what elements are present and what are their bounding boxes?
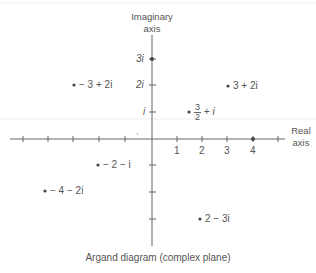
- point-neg3-plus-2i: [72, 83, 75, 86]
- diagram-canvas: [0, 0, 316, 273]
- fraction-rest: + i: [204, 106, 215, 117]
- real-tick-label-1: 1: [174, 146, 180, 156]
- point-2-minus-3i: [198, 217, 201, 220]
- point-3-plus-2i: [226, 84, 229, 87]
- point-3half-plus-i: [187, 110, 190, 113]
- imag-tick-label-i: i: [143, 107, 145, 117]
- point-label-neg3-plus-2i: − 3 + 2i: [79, 80, 112, 90]
- point-neg2-minus-i: [96, 163, 99, 166]
- real-tick-label-3: 3: [224, 146, 230, 156]
- imag-tick-label-2i: 2i: [136, 80, 144, 90]
- real-tick-label-2: 2: [199, 146, 205, 156]
- point-label-2-minus-3i: 2 − 3i: [205, 214, 230, 224]
- fraction-denominator: 2: [194, 113, 201, 122]
- real-axis-title-line1: Real: [288, 125, 314, 137]
- imaginary-axis-title: Imaginary axis: [122, 11, 182, 35]
- argand-diagram: Imaginary axis Real axis 1 2 3 4 3i 2i i…: [0, 0, 316, 273]
- imaginary-axis-title-line2: axis: [122, 23, 182, 35]
- point-label-neg2-minus-i: − 2 − i: [103, 160, 131, 170]
- imaginary-axis-title-line1: Imaginary: [122, 11, 182, 23]
- point-label-3half-plus-i: 3 2 + i: [194, 103, 215, 122]
- point-neg4-minus-2i: [43, 189, 46, 192]
- real-axis-title: Real axis: [288, 125, 314, 149]
- point-4: [251, 137, 255, 141]
- real-tick-label-4: 4: [250, 146, 256, 156]
- real-axis-title-line2: axis: [288, 137, 314, 149]
- fraction-3-over-2: 3 2: [194, 103, 201, 122]
- point-3i: [150, 57, 154, 61]
- diagram-caption: Argand diagram (complex plane): [0, 252, 316, 263]
- stray-mark: [137, 133, 138, 135]
- imag-tick-label-3i: 3i: [136, 54, 144, 64]
- point-label-neg4-minus-2i: − 4 − 2i: [50, 186, 83, 196]
- point-label-3-plus-2i: 3 + 2i: [233, 81, 258, 91]
